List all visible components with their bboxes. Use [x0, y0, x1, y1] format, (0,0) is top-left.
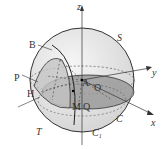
label-S: S	[117, 32, 122, 43]
label-H: H	[27, 88, 34, 99]
label-M: M	[72, 101, 81, 112]
x-axis-label: x	[150, 117, 156, 128]
label-A: A	[82, 77, 90, 88]
x-arrow-icon	[147, 110, 154, 115]
point-A	[72, 90, 74, 92]
label-P: P	[14, 72, 20, 83]
label-T: T	[36, 126, 43, 137]
z-axis-label: z	[76, 1, 81, 12]
y-axis-label: y	[151, 67, 157, 78]
label-Q: Q	[83, 101, 91, 112]
label-B: B	[29, 39, 36, 50]
label-C1-sub: 1	[99, 133, 102, 139]
label-O: O	[94, 82, 101, 93]
label-C: C	[116, 113, 123, 124]
sphere-diagram: z y x B S P H A O M Q T C C1	[0, 0, 163, 149]
